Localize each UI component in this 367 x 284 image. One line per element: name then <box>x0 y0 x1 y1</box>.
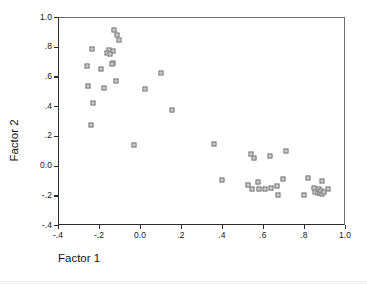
data-point <box>320 178 325 183</box>
x-ticklabel: .6 <box>259 231 266 240</box>
x-tick-1.0 <box>345 225 346 229</box>
data-points-layer <box>58 17 345 225</box>
data-point <box>85 84 90 89</box>
x-tick-0.2 <box>181 225 182 229</box>
data-point <box>252 156 257 161</box>
scatter-plot-figure: 1.0 .8 .6 .4 .2 0.0 -.2 -.4 -.4 -.2 0.0 … <box>0 0 367 284</box>
data-point <box>85 63 90 68</box>
data-point <box>255 180 260 185</box>
x-ticklabel: 1.0 <box>339 231 351 240</box>
data-point <box>89 122 94 127</box>
data-point <box>262 186 267 191</box>
x-axis-title: Factor 1 <box>58 252 100 265</box>
data-point <box>249 187 254 192</box>
y-ticklabel: .8 <box>10 42 52 51</box>
data-point <box>274 184 279 189</box>
x-ticklabel: .2 <box>177 231 184 240</box>
y-ticklabel: -.4 <box>10 221 52 230</box>
data-point <box>302 192 307 197</box>
x-ticklabel: -.2 <box>94 231 104 240</box>
y-ticklabel: 1.0 <box>10 13 52 22</box>
data-point <box>256 186 261 191</box>
data-point <box>91 101 96 106</box>
x-tick--0.2 <box>99 225 100 229</box>
data-point <box>159 70 164 75</box>
data-point <box>109 62 114 67</box>
data-point <box>326 187 331 192</box>
data-point <box>170 107 175 112</box>
data-point <box>131 143 136 148</box>
data-point <box>280 176 285 181</box>
x-ticklabel: 0.0 <box>134 231 146 240</box>
y-ticklabel: -.2 <box>10 191 52 200</box>
data-point <box>283 149 288 154</box>
data-point <box>267 154 272 159</box>
scan-artifact <box>0 281 367 282</box>
x-tick-0.4 <box>222 225 223 229</box>
x-ticklabel: .4 <box>218 231 225 240</box>
data-point <box>90 46 95 51</box>
data-point <box>268 185 273 190</box>
y-ticklabel: .6 <box>10 72 52 81</box>
data-point <box>212 142 217 147</box>
x-tick-0.0 <box>140 225 141 229</box>
data-point <box>275 192 280 197</box>
data-point <box>99 67 104 72</box>
x-tick-0.8 <box>304 225 305 229</box>
data-point <box>114 78 119 83</box>
data-point <box>117 37 122 42</box>
data-point <box>305 176 310 181</box>
x-tick-0.6 <box>263 225 264 229</box>
y-axis-title: Factor 2 <box>8 103 21 179</box>
x-tick--0.4 <box>58 225 59 229</box>
data-point <box>107 51 112 56</box>
x-ticklabel: -.4 <box>53 231 63 240</box>
x-ticklabel: .8 <box>300 231 307 240</box>
data-point <box>219 178 224 183</box>
data-point <box>102 85 107 90</box>
data-point <box>142 87 147 92</box>
